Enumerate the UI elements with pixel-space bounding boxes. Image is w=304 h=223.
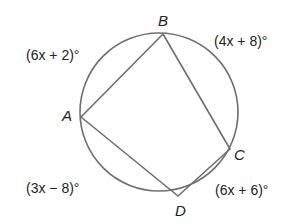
arc-label-cd: (6x + 6)° <box>215 182 268 198</box>
arc-label-ab: (6x + 2)° <box>26 47 79 63</box>
point-label-c: C <box>234 146 245 163</box>
point-label-b: B <box>158 12 168 29</box>
arc-label-da: (3x − 8)° <box>26 180 79 196</box>
point-label-d: D <box>175 202 186 219</box>
circle <box>80 33 238 191</box>
point-label-a: A <box>61 107 72 124</box>
inscribed-quadrilateral-diagram: A B C D (6x + 2)° (4x + 8)° (6x + 6)° (3… <box>0 0 304 223</box>
arc-label-bc: (4x + 8)° <box>214 33 267 49</box>
quadrilateral-abcd <box>81 34 230 196</box>
